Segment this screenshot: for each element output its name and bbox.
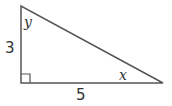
- triangle: [21, 6, 163, 83]
- triangle-diagram: y 3 x 5: [0, 0, 172, 106]
- leg-label-vertical: 3: [5, 39, 15, 57]
- right-angle-marker: [21, 74, 30, 83]
- angle-label-y: y: [23, 14, 33, 30]
- leg-label-horizontal: 5: [76, 86, 86, 104]
- angle-label-x: x: [119, 67, 127, 83]
